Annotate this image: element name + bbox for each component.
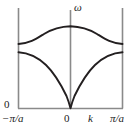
- dispersion-plot: [0, 0, 139, 129]
- omega-axis-label: ω: [74, 2, 82, 13]
- k-max-tick-label: π/a: [110, 113, 124, 124]
- plot-axes: [18, 8, 123, 109]
- y-axis-zero-label: 0: [4, 99, 10, 110]
- k-axis-label: k: [88, 113, 93, 124]
- k-zero-tick-label: 0: [64, 113, 70, 124]
- phonon-dispersion-figure: ω 0 −π/a 0 k π/a: [0, 0, 139, 129]
- k-min-tick-label: −π/a: [2, 113, 24, 124]
